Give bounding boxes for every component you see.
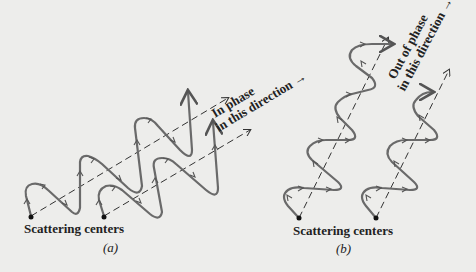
scattering-center-a1	[29, 215, 34, 220]
wave-arrowheads-a	[24, 118, 218, 205]
scattering-center-b1	[297, 216, 302, 221]
diffraction-diagram: In phase in this direction → Scattering …	[0, 0, 476, 272]
annotation-in-phase: In phase in this direction →	[205, 57, 309, 135]
wave-b2	[362, 92, 437, 218]
direction-line-a1	[31, 98, 228, 216]
scattering-center-b2	[374, 216, 379, 221]
caption-a: (a)	[103, 240, 118, 255]
direction-line-a2	[104, 130, 250, 216]
panel-b: Out of phase in this direction → Scatter…	[284, 0, 456, 256]
scattering-center-a2	[102, 215, 107, 220]
direction-line-b2	[376, 70, 449, 218]
scattering-centers-label-a: Scattering centers	[24, 221, 124, 236]
panel-a: In phase in this direction → Scattering …	[24, 57, 309, 255]
wave-a1	[26, 92, 192, 216]
wave-a2	[99, 122, 218, 218]
scattering-centers-label-b: Scattering centers	[293, 223, 393, 238]
caption-b: (b)	[336, 241, 351, 256]
direction-line-b1	[299, 38, 388, 218]
